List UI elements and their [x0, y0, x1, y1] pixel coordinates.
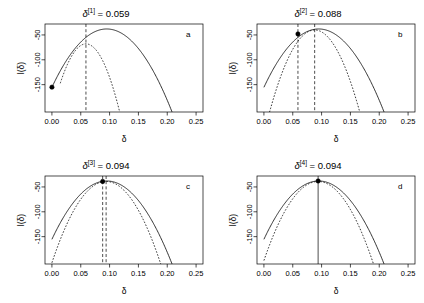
- previous-estimate-point: [296, 32, 300, 36]
- x-tick-label: 0.20: [160, 269, 175, 278]
- panel-b-plot: 0.000.050.100.150.200.25-50-100-150δl(δ): [212, 0, 424, 151]
- panel-a-plot: 0.000.050.100.150.200.25-50-100-150δl(δ): [0, 0, 212, 151]
- x-axis-title: δ: [334, 286, 339, 296]
- x-tick-label: 0.00: [45, 117, 60, 126]
- surrogate-q-function: [52, 181, 178, 303]
- x-tick-label: 0.10: [102, 269, 117, 278]
- x-axis-title: δ: [122, 286, 127, 296]
- y-tick-label: -100: [33, 204, 42, 219]
- x-tick-label: 0.05: [73, 269, 88, 278]
- y-tick-label: -150: [33, 77, 42, 92]
- y-axis-title: l(δ): [228, 214, 238, 226]
- x-tick-label: 0.25: [189, 269, 204, 278]
- panel-c-plot: 0.000.050.100.150.200.25-50-100-150δl(δ): [0, 152, 212, 303]
- x-tick-label: 0.10: [102, 117, 117, 126]
- y-axis-title: l(δ): [16, 62, 26, 74]
- x-tick-label: 0.05: [285, 117, 300, 126]
- y-tick-label: -150: [245, 77, 254, 92]
- x-tick-label: 0.05: [73, 117, 88, 126]
- plot-frame: [257, 176, 415, 264]
- panel-b: δ[2] = 0.088 0.000.050.100.150.200.25-50…: [212, 0, 424, 151]
- y-tick-label: -100: [245, 204, 254, 219]
- x-tick-label: 0.25: [401, 117, 416, 126]
- em-algorithm-likelihood-figure: δ[1] = 0.059 0.000.050.100.150.200.25-50…: [0, 0, 424, 303]
- y-tick-label: -150: [33, 229, 42, 244]
- panel-d-plot: 0.000.050.100.150.200.25-50-100-150δl(δ): [212, 152, 424, 303]
- panel-b-letter: b: [398, 30, 402, 39]
- panel-d-letter: d: [398, 182, 402, 191]
- panel-a-letter: a: [186, 30, 190, 39]
- x-tick-label: 0.00: [45, 269, 60, 278]
- previous-estimate-point: [100, 179, 104, 183]
- x-tick-label: 0.05: [285, 269, 300, 278]
- surrogate-q-function: [264, 181, 391, 303]
- x-tick-label: 0.10: [314, 117, 329, 126]
- y-tick-label: -50: [245, 30, 254, 41]
- y-axis-title: l(δ): [228, 62, 238, 74]
- y-tick-label: -50: [245, 182, 254, 193]
- observed-log-likelihood: [264, 181, 410, 303]
- surrogate-q-function: [60, 44, 127, 144]
- x-tick-label: 0.15: [343, 269, 358, 278]
- y-tick-label: -150: [245, 229, 254, 244]
- x-tick-label: 0.20: [372, 117, 387, 126]
- x-tick-label: 0.25: [189, 117, 204, 126]
- panel-d: δ[4] = 0.094 0.000.050.100.150.200.25-50…: [212, 152, 424, 303]
- y-tick-label: -100: [245, 52, 254, 67]
- x-tick-label: 0.00: [257, 117, 272, 126]
- y-tick-label: -50: [33, 182, 42, 193]
- panel-c-letter: c: [186, 182, 190, 191]
- y-axis-title: l(δ): [16, 214, 26, 226]
- panel-c: δ[3] = 0.094 0.000.050.100.150.200.25-50…: [0, 152, 212, 303]
- x-tick-label: 0.25: [401, 269, 416, 278]
- x-tick-label: 0.10: [314, 269, 329, 278]
- plot-frame: [45, 24, 203, 112]
- panel-a: δ[1] = 0.059 0.000.050.100.150.200.25-50…: [0, 0, 212, 151]
- converged-estimate-point: [316, 179, 320, 183]
- x-tick-label: 0.20: [372, 269, 387, 278]
- x-tick-label: 0.15: [131, 269, 146, 278]
- x-tick-label: 0.15: [343, 117, 358, 126]
- observed-log-likelihood: [52, 181, 198, 303]
- x-tick-label: 0.15: [131, 117, 146, 126]
- x-axis-title: δ: [334, 134, 339, 144]
- y-tick-label: -50: [33, 30, 42, 41]
- x-axis-title: δ: [122, 134, 127, 144]
- plot-frame: [257, 24, 415, 112]
- x-tick-label: 0.00: [257, 269, 272, 278]
- x-tick-label: 0.20: [160, 117, 175, 126]
- start-point: [50, 85, 54, 89]
- y-tick-label: -100: [33, 52, 42, 67]
